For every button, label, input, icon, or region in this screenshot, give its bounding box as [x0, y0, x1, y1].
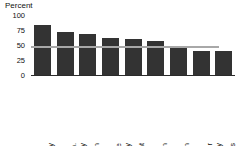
x-axis-tick-group: DemographyEcon. complexityUrbanizationIn… [31, 77, 235, 145]
x-axis-tick-label: Income equality [115, 143, 127, 146]
x-axis-tick-label: Gender equality [206, 143, 218, 146]
x-axis-tick-label: Institutions [229, 143, 240, 146]
x-axis-tick-label: Education [161, 143, 173, 146]
bar [57, 32, 74, 76]
bar [102, 38, 119, 76]
x-axis-tick-label: Investment [138, 143, 150, 146]
bar [125, 39, 142, 76]
x-axis-line [31, 75, 235, 76]
y-axis-tick-label: 0 [3, 72, 25, 80]
y-axis-title: Percent [5, 1, 33, 10]
y-axis-tick-label: 50 [3, 42, 25, 50]
bar [193, 51, 210, 76]
bar [215, 51, 232, 76]
bar [34, 25, 51, 76]
x-axis-tick-label: Innovation [183, 143, 195, 146]
bar-chart: Percent 0255075100 DemographyEcon. compl… [0, 0, 240, 146]
x-axis-tick-label: Urbanization [93, 143, 105, 146]
x-axis-tick-label: Demography [47, 143, 59, 146]
bar [170, 46, 187, 76]
y-axis-tick-label: 25 [3, 57, 25, 65]
y-axis-tick-label: 75 [3, 27, 25, 35]
reference-line [31, 46, 219, 48]
x-axis-tick-label: Econ. complexity [70, 143, 82, 146]
bar [79, 34, 96, 76]
y-axis-tick-label: 100 [3, 12, 25, 20]
